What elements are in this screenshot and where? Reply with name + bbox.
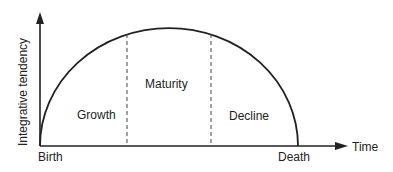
phase-label-decline: Decline — [229, 109, 269, 123]
x-axis-arrow-icon — [335, 142, 348, 150]
y-axis-arrow-icon — [36, 12, 44, 24]
death-label: Death — [278, 150, 310, 164]
y-axis-label: Integrative tendency — [16, 38, 30, 146]
life-cycle-diagram: Integrative tendency Time Birth Death Gr… — [0, 0, 393, 172]
phase-label-maturity: Maturity — [145, 77, 188, 91]
phase-label-growth: Growth — [77, 108, 116, 122]
birth-label: Birth — [38, 150, 63, 164]
x-axis-label: Time — [352, 140, 379, 154]
